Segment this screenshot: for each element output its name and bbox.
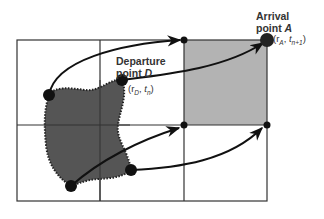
departure-point-dot [65,180,77,192]
departure-coordinates: (rD, tn) [128,84,154,96]
arrival-symbol: A [285,22,293,34]
grid-node [181,122,188,129]
departure-region [45,80,131,186]
arrival-point-label: Arrival point A [256,11,292,34]
trajectory-arrow [131,128,262,170]
departure-label-line2: point D [116,68,166,80]
departure-point-dot [43,89,55,101]
departure-point-label: Departure point D [116,56,166,79]
arrival-point-a-dot [260,33,274,47]
grid-node [181,37,188,44]
departure-point-dot [125,164,137,176]
arrival-cell [184,40,267,125]
arrival-coordinates: (rA, tn+1) [273,34,306,46]
departure-symbol: D [145,67,153,79]
grid-node [264,122,271,129]
